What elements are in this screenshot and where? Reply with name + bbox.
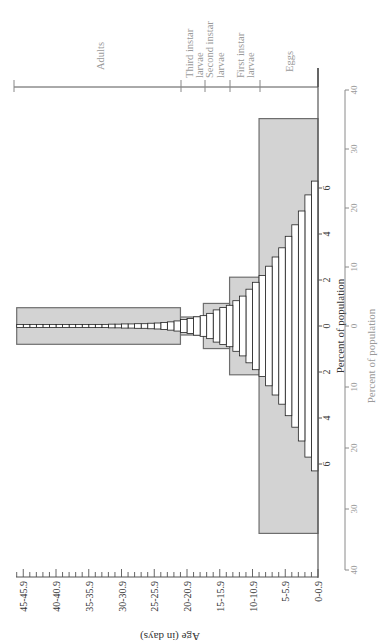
age-bar (253, 282, 260, 369)
age-bar (76, 325, 83, 328)
age-bar (36, 325, 43, 328)
age-axis-tick-label: 5-5.9 (280, 581, 291, 602)
age-axis-tick-label: 40-40.9 (51, 581, 62, 612)
pyramid-chart: 6420246Percent of population403020100102… (0, 0, 390, 642)
age-bar (69, 325, 76, 328)
age-bar (56, 325, 63, 328)
age-bar (194, 317, 201, 335)
inner-axis-tick-label: 2 (321, 278, 332, 283)
age-bar (30, 325, 37, 328)
age-bar (311, 181, 318, 471)
age-bar (115, 324, 122, 328)
outer-axis-tick-label: 40 (349, 565, 359, 575)
inner-axis-tick-label: 4 (321, 232, 332, 237)
inner-axis-tick-label: 0 (321, 324, 332, 329)
age-bar (148, 323, 155, 329)
inner-axis-tick-label: 2 (321, 370, 332, 375)
outer-axis-title: Percent of population (365, 308, 377, 403)
outer-axis-tick-label: 30 (349, 144, 359, 154)
age-bar (102, 324, 109, 327)
age-bar (161, 323, 168, 330)
age-bar (259, 275, 266, 376)
age-axis-tick-label: 35-35.9 (84, 581, 95, 612)
age-bar (200, 316, 207, 337)
age-bar (23, 325, 30, 328)
inner-axis-tick-label: 6 (321, 462, 332, 467)
age-bar (17, 325, 24, 328)
inner-axis-tick-label: 4 (321, 416, 332, 421)
age-bar (233, 301, 240, 352)
age-bar (292, 225, 299, 427)
age-axis: 0-0.95-5.910-10.915-15.920-20.925-25.930… (16, 569, 324, 642)
stage-label-bar: AdultsThird instarlarvaeSecond instarlar… (14, 21, 318, 92)
age-bar (95, 324, 102, 327)
inner-percent-axis: 6420246Percent of population (318, 68, 346, 578)
age-axis-tick-label: 0-0.9 (313, 581, 324, 602)
age-bar (122, 324, 129, 328)
age-bar (154, 323, 161, 329)
outer-axis-tick-label: 30 (349, 504, 359, 514)
outer-axis-tick-label: 10 (349, 262, 359, 272)
age-bar (167, 322, 174, 330)
age-axis-tick-label: 15-15.9 (215, 581, 226, 612)
outer-axis-tick-label: 40 (349, 85, 359, 95)
age-bar (63, 325, 70, 328)
age-axis-tick-label: 30-30.9 (117, 581, 128, 612)
age-bar (43, 325, 50, 328)
age-bar (135, 324, 142, 329)
age-bar (279, 248, 286, 404)
outer-axis-tick-label: 0 (349, 323, 359, 328)
outer-axis-tick-label: 10 (349, 382, 359, 392)
age-axis-tick-label: 25-25.9 (149, 581, 160, 612)
outer-percent-axis: 40302010010203040Percent of population (345, 85, 377, 575)
stage-label-second-instar: Second instar (204, 21, 215, 78)
age-bar (272, 257, 279, 395)
inner-axis-tick-label: 6 (321, 186, 332, 191)
age-bar (207, 313, 214, 338)
age-bar (213, 310, 220, 342)
age-bar (82, 325, 89, 328)
age-bar (220, 308, 227, 345)
age-axis-tick-label: 20-20.9 (182, 581, 193, 612)
age-bar (141, 324, 148, 329)
outer-axis-tick-label: 20 (349, 203, 359, 213)
inner-axis-title: Percent of population (334, 278, 346, 373)
age-bar (305, 195, 312, 457)
age-bar (298, 211, 305, 441)
stage-label-first-instar-2: larvae (245, 52, 256, 78)
stage-label-adults: Adults (95, 42, 106, 70)
age-bar (174, 321, 181, 331)
age-bar (187, 318, 194, 333)
age-bar (285, 236, 292, 415)
age-bar (266, 266, 273, 386)
age-axis-tick-label: 10-10.9 (248, 581, 259, 612)
outer-axis-tick-label: 20 (349, 443, 359, 453)
stage-label-second-instar-2: larvae (215, 52, 226, 78)
age-bar (89, 324, 96, 327)
age-axis-title: Age (in days) (140, 630, 200, 642)
age-bar (246, 289, 253, 363)
age-bar (239, 296, 246, 356)
age-bar (180, 320, 187, 333)
age-bar (128, 324, 135, 328)
age-structure-pyramid-figure: 6420246Percent of population403020100102… (0, 0, 390, 642)
age-bar (108, 324, 115, 328)
age-bar (49, 325, 56, 328)
age-axis-tick-label: 45-45.9 (18, 581, 29, 612)
age-bar (226, 305, 233, 346)
stage-label-eggs: Eggs (284, 51, 295, 72)
